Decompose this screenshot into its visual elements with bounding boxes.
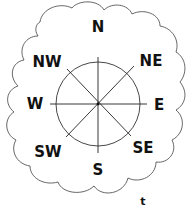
label-northeast: NE: [140, 52, 163, 70]
label-east: E: [154, 96, 164, 114]
label-north: N: [92, 18, 105, 36]
compass-diagram: N NE E SE S SW W NW t: [0, 0, 192, 207]
label-southwest: SW: [34, 143, 62, 161]
label-southeast: SE: [132, 139, 153, 157]
center-point: [97, 103, 100, 106]
corner-mark: t: [140, 195, 145, 208]
label-west: W: [27, 95, 44, 113]
label-south: S: [93, 161, 104, 179]
label-northwest: NW: [32, 53, 62, 71]
